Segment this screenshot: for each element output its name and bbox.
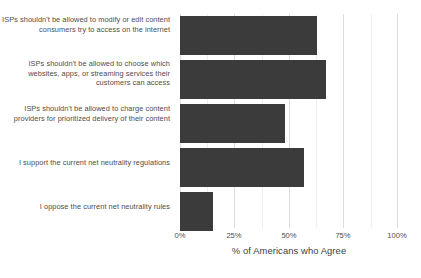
category-label-4: I oppose the current net neutrality rule… (2, 202, 170, 212)
tick-label-50: 50% (269, 231, 309, 240)
bar-4 (180, 192, 213, 231)
bar-0 (180, 16, 317, 55)
category-label-0: ISPs shouldn't be allowed to modify or e… (2, 15, 170, 34)
tick-label-75: 75% (323, 231, 363, 240)
gridline-major-100 (397, 14, 398, 228)
value-axis-tick-labels: 0% 25% 50% 75% 100% (0, 231, 421, 243)
tick-label-25: 25% (214, 231, 254, 240)
category-label-1: ISPs shouldn't be allowed to choose whic… (2, 59, 170, 88)
category-label-2: ISPs shouldn't be allowed to charge cont… (2, 104, 170, 123)
tick-label-0: 0% (160, 231, 200, 240)
bar-2 (180, 104, 285, 143)
category-label-3: I support the current net neutrality reg… (2, 158, 170, 168)
value-axis-title: % of Americans who Agree (180, 245, 398, 256)
bar-1 (180, 60, 326, 99)
gridline-minor-87 (371, 14, 372, 228)
plot-area (180, 14, 398, 228)
tick-label-100: 100% (377, 231, 417, 240)
bar-chart: ISPs shouldn't be allowed to modify or e… (0, 0, 421, 278)
bar-3 (180, 148, 304, 187)
category-axis-labels: ISPs shouldn't be allowed to modify or e… (0, 14, 174, 228)
gridline-major-75 (343, 14, 344, 228)
